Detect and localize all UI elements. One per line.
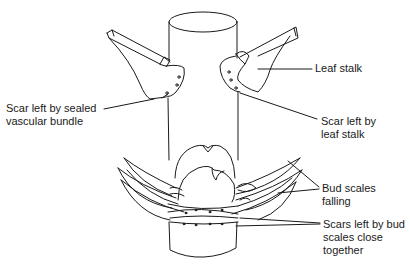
label-line: scales close [323,231,405,244]
terminal-bud [175,145,235,202]
label-line: together [323,244,405,257]
label-bud-scales-falling: Bud scales falling [322,182,376,208]
label-line: Scars left by bud [323,218,405,231]
label-line: vascular bundle [6,115,97,128]
left-leaf-stalk [107,30,184,99]
label-line: Bud scales [322,182,376,195]
label-scar-sealed-vascular-bundle: Scar left by sealed vascular bundle [6,102,97,128]
scale-scar-bands [168,204,238,226]
label-scars-bud-scales: Scars left by bud scales close together [323,218,405,257]
twig-diagram: Scar left by sealed vascular bundle Leaf… [0,0,410,267]
label-scar-leaf-stalk: Scar left by leaf stalk [321,115,376,141]
right-leaf-stalk [220,27,298,92]
label-leaf-stalk: Leaf stalk [315,62,362,75]
label-line: Leaf stalk [315,62,362,75]
label-line: Scar left by [321,115,376,128]
label-line: falling [322,195,376,208]
label-line: Scar left by sealed [6,102,97,115]
label-line: leaf stalk [321,128,376,141]
stem-base [169,222,237,257]
bud-scales-right [232,158,302,220]
